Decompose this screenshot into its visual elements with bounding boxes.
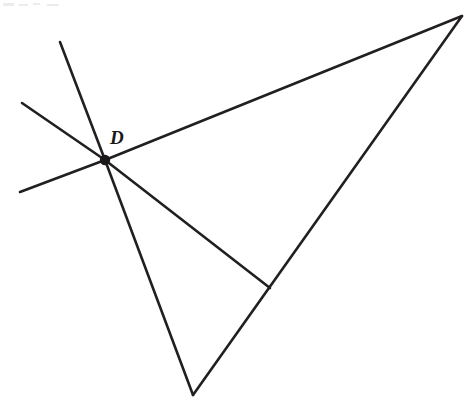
- point-labels: D: [109, 127, 124, 148]
- point-label-d: D: [109, 127, 124, 148]
- triangle-outline: [105, 16, 462, 395]
- triangle-top-edge-line: [105, 16, 462, 160]
- vertex-dot-d: [100, 155, 110, 165]
- extension-rays: [20, 42, 105, 192]
- triangle-right-edge-line: [193, 16, 462, 395]
- geometry-canvas: D: [0, 0, 470, 411]
- vertex-markers: [100, 155, 110, 165]
- geometry-figure: D: [0, 0, 470, 411]
- ray-upper-left-line: [22, 103, 105, 160]
- ray-up-steep-line: [60, 42, 105, 160]
- ray-lower-left-line: [20, 160, 105, 192]
